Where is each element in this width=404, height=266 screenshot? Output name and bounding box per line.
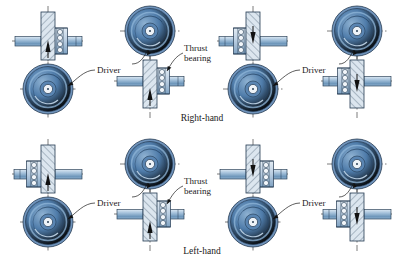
worm-body: [41, 12, 55, 60]
worm-gear-wheel: [332, 6, 382, 56]
bearing-label-2: bearing: [184, 53, 211, 63]
worm-body: [143, 60, 157, 108]
worm-gear-wheel: [228, 197, 278, 247]
worm-gear-wheel: [23, 64, 73, 114]
worm-body: [143, 193, 157, 241]
thrust-label-2: Thrust: [184, 43, 208, 53]
thrust-bearing-pack: [259, 161, 274, 187]
worm-body: [350, 193, 364, 241]
worm-gear-wheel: [23, 197, 73, 247]
bearing-label-6: bearing: [184, 186, 211, 196]
worm-body: [41, 145, 55, 193]
driver-label-3: Driver: [302, 65, 326, 75]
worm-body: [246, 12, 260, 60]
worm-body: [246, 145, 260, 193]
driver-label-5: Driver: [97, 198, 121, 208]
driver-label-1: Driver: [97, 65, 121, 75]
worm-gear-wheel: [332, 139, 382, 189]
thrust-bearing-pack: [27, 161, 42, 187]
worm-body: [350, 60, 364, 108]
figure-canvas: Driver: [0, 0, 404, 266]
worm-gear-diagram: Driver: [0, 0, 404, 266]
worm-gear-wheel: [125, 139, 175, 189]
driver-label-7: Driver: [302, 198, 326, 208]
caption-left-hand: Left-hand: [183, 246, 221, 256]
worm-gear-wheel: [125, 6, 175, 56]
thrust-bearing-pack: [156, 201, 171, 227]
caption-right-hand: Right-hand: [181, 113, 224, 123]
worm-gear-wheel: [228, 64, 278, 114]
thrust-bearing-pack: [337, 201, 352, 227]
thrust-label-6: Thrust: [184, 176, 208, 186]
